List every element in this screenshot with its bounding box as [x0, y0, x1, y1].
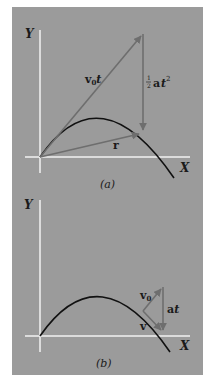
trajectory-curve-a [40, 118, 174, 178]
x-axis-label-b: X [179, 339, 190, 353]
label-at: at [167, 303, 179, 316]
trajectory-curve-b [40, 297, 170, 352]
label-r: r [113, 139, 119, 152]
panel-a: Y X v0t 1 2 a t 2 r (a) [25, 27, 190, 191]
svg-text:1: 1 [147, 74, 151, 81]
x-axis-label-a: X [179, 161, 190, 175]
label-half-at2: 1 2 a t 2 [146, 74, 170, 90]
label-v0: v0 [139, 289, 151, 303]
svg-text:2: 2 [166, 75, 170, 83]
svg-text:2: 2 [147, 82, 151, 89]
y-axis-label-b: Y [24, 198, 34, 212]
vector-v0t [40, 36, 141, 157]
caption-b: (b) [96, 357, 112, 370]
svg-text:a: a [153, 77, 160, 90]
label-v: v [139, 320, 147, 333]
vector-r [40, 134, 139, 157]
label-v0t: v0t [84, 73, 101, 87]
projectile-motion-diagram: Y X v0t 1 2 a t 2 r (a) Y X v0 [0, 0, 206, 387]
y-axis-label-a: Y [25, 27, 35, 41]
caption-a: (a) [100, 178, 115, 191]
panel-b: Y X v0 at v (b) [24, 198, 190, 370]
